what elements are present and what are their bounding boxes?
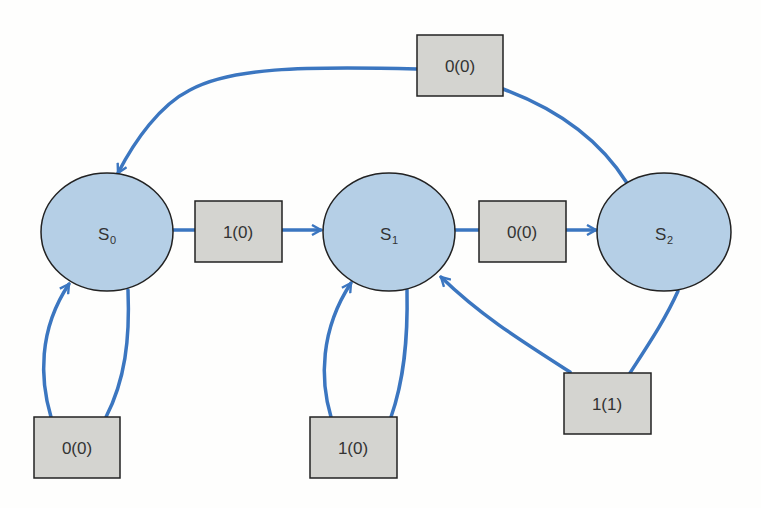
edge-top-box-to-s0 [118,68,417,173]
transition-label: 0(0) [445,57,475,76]
edge-loop-box-to-s0 [44,284,69,417]
edge-s1-to-loop-box [391,290,407,417]
transition-box-s0-s1: 1(0) [195,201,282,262]
state-s0: S 0 [41,173,173,291]
state-s2: S 2 [597,173,731,291]
edge-s2-to-box [630,291,678,373]
state-s1: S 1 [323,173,455,291]
transition-label: 1(0) [338,439,368,458]
transition-box-s2-s1: 1(1) [564,373,651,434]
transition-label: 1(1) [592,395,622,414]
state-diagram: S 0 S 1 S 2 0(0) 1(0) 0(0) 0(0) 1(0) 1(1… [0,0,761,508]
state-s1-label: S [380,225,391,244]
transition-box-s1-s2: 0(0) [479,201,566,262]
edge-loop-box-to-s1 [324,283,351,417]
transition-box-s0-s0: 0(0) [34,417,120,478]
transition-box-s1-s1: 1(0) [310,417,397,478]
edge-s2-to-top-box [503,89,627,183]
edge-s0-to-loop-box [106,290,128,417]
state-s2-label: S [655,225,666,244]
transition-label: 0(0) [62,439,92,458]
state-s1-subscript: 1 [392,234,398,246]
transition-label: 0(0) [507,223,537,242]
edge-box-to-s1 [441,277,570,372]
state-s2-subscript: 2 [667,234,673,246]
state-s0-subscript: 0 [110,234,116,246]
state-s0-label: S [98,225,109,244]
transition-box-s2-s0: 0(0) [417,35,503,96]
transition-label: 1(0) [223,223,253,242]
